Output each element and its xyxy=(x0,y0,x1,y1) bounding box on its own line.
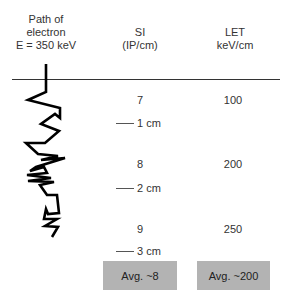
si-value-2: 8 xyxy=(130,158,150,170)
si-value-1: 7 xyxy=(130,94,150,106)
let-value-2: 200 xyxy=(218,158,248,170)
let-average-box: Avg. ~200 xyxy=(197,261,270,290)
si-average-label: Avg. ~8 xyxy=(121,270,158,282)
distance-marker-3: 3 cm xyxy=(116,245,161,257)
distance-label-3: 3 cm xyxy=(137,245,161,257)
let-average-label: Avg. ~200 xyxy=(209,270,259,282)
si-value-3: 9 xyxy=(130,223,150,235)
distance-label-2: 2 cm xyxy=(137,182,161,194)
distance-tick xyxy=(116,251,134,252)
distance-tick xyxy=(116,188,134,189)
let-value-1: 100 xyxy=(218,94,248,106)
si-average-box: Avg. ~8 xyxy=(103,261,177,290)
distance-marker-2: 2 cm xyxy=(116,182,161,194)
distance-tick xyxy=(116,123,134,124)
distance-label-1: 1 cm xyxy=(137,117,161,129)
let-value-3: 250 xyxy=(218,223,248,235)
distance-marker-1: 1 cm xyxy=(116,117,161,129)
